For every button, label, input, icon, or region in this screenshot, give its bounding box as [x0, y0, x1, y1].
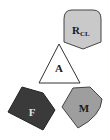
node-a-label: A [55, 62, 63, 74]
node-f-label: F [29, 106, 36, 118]
diagram-canvas: RCL A F M [0, 0, 110, 140]
node-f: F [8, 87, 55, 130]
node-rcl: RCL [64, 10, 101, 49]
node-m-label: M [79, 102, 90, 114]
node-m: M [62, 87, 102, 128]
node-a: A [39, 44, 80, 83]
